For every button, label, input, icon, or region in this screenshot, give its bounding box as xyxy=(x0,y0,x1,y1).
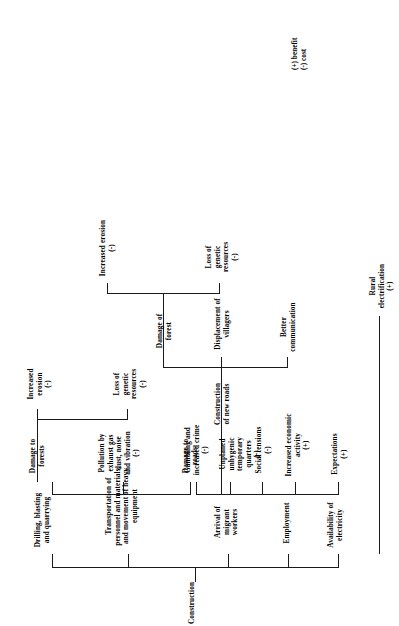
edge-forests-to-genetic xyxy=(127,409,128,420)
node-gambling-increased-crime: Gambling and increased crime (-) xyxy=(184,422,210,478)
node-arrival-migrant-workers: Arrival of migrant workers xyxy=(214,494,240,550)
edge-forest-to-genetic-bot xyxy=(219,283,220,294)
node-increased-economic-activity: Increased economic activity (+) xyxy=(285,412,311,478)
node-better-communication: Better communication xyxy=(280,301,297,353)
edge-transportation-to-damage-roads xyxy=(190,482,191,495)
node-increased-erosion-upper: Increased erosion (-) xyxy=(27,363,53,405)
node-construction-of-new-roads: Construction of new roads xyxy=(214,378,231,430)
node-expectations: Expectations (+) xyxy=(331,430,348,478)
edge-new-roads-spine xyxy=(163,367,287,368)
edge-to-arrival-migrant-workers xyxy=(228,554,229,568)
node-loss-genetic-resources-upper: Loss of genetic resources (-) xyxy=(113,363,147,405)
node-increased-erosion-lower: Increased erosion (-) xyxy=(99,217,116,279)
edge-roads-to-displacement xyxy=(221,357,222,368)
node-construction: Construction xyxy=(188,582,197,624)
edge-damage-forest-spine xyxy=(107,293,219,294)
edge-roads-to-better-comm xyxy=(287,357,288,368)
edge-employment-to-expectations xyxy=(338,482,339,495)
edge-arrival-to-gambling xyxy=(196,482,197,495)
node-rural-electrification: Rural electrification (+) xyxy=(369,260,395,312)
legend-benefit-cost: (+) benefit (-) cost xyxy=(290,6,308,70)
node-damage-of-forest: Damage of forest xyxy=(156,309,173,353)
edge-to-employment xyxy=(288,554,289,568)
edge-transportation-to-damage-forests xyxy=(52,482,53,495)
node-availability-of-electricity: Availability of electricity xyxy=(327,500,344,550)
edge-damage-forests-spine xyxy=(37,419,127,420)
edge-forests-to-erosion xyxy=(37,409,38,420)
node-pollution-exhaust-gas: Pollution by exhaust gas dust, noise and… xyxy=(98,428,141,478)
impact-tree-diagram: Construction Drilling, blasting and quar… xyxy=(0,0,399,626)
edge-root-stub xyxy=(195,568,196,582)
node-loss-genetic-resources-lower: Loss of genetic resources (-) xyxy=(205,235,239,279)
edge-to-transportation xyxy=(128,554,129,568)
edge-to-availability-electricity xyxy=(338,554,339,568)
node-social-tensions: Social tensions (-) xyxy=(255,422,272,478)
edge-forest-to-erosion-bot xyxy=(107,283,108,294)
edge-roads-to-damage-forest xyxy=(163,357,164,368)
edge-employment-spine xyxy=(262,494,338,495)
node-displacement-of-villagers: Displacement of villagers xyxy=(214,295,231,353)
node-drilling-blasting-quarrying: Drilling, blasting and quarrying xyxy=(34,490,51,550)
node-employment: Employment xyxy=(283,496,292,550)
node-damage-to-forests: Damage to forests xyxy=(29,434,46,478)
edge-employment-to-economic xyxy=(295,482,296,495)
edge-to-drilling xyxy=(52,554,53,568)
edge-electricity-to-rural xyxy=(379,316,380,554)
